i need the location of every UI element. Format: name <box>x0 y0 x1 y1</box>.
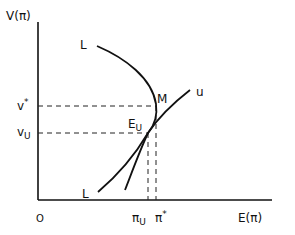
v-star-label: v* <box>17 97 29 113</box>
pi-u-label: πU <box>132 211 146 227</box>
v-u-label: vU <box>17 125 31 141</box>
l-lower-label: L <box>82 187 89 201</box>
y-axis-label: V(π) <box>6 9 31 23</box>
point-eu-label: EU <box>128 117 142 133</box>
x-axis-label: E(π) <box>238 211 262 225</box>
l-upper-label: L <box>80 38 87 52</box>
origin-label: O <box>36 213 44 224</box>
point-m-label: M <box>157 92 167 106</box>
frontier-diagram: V(π) E(π) O v* vU πU π* L L u M EU <box>0 0 295 235</box>
pi-star-label: π* <box>155 209 167 225</box>
u-label: u <box>196 85 204 99</box>
